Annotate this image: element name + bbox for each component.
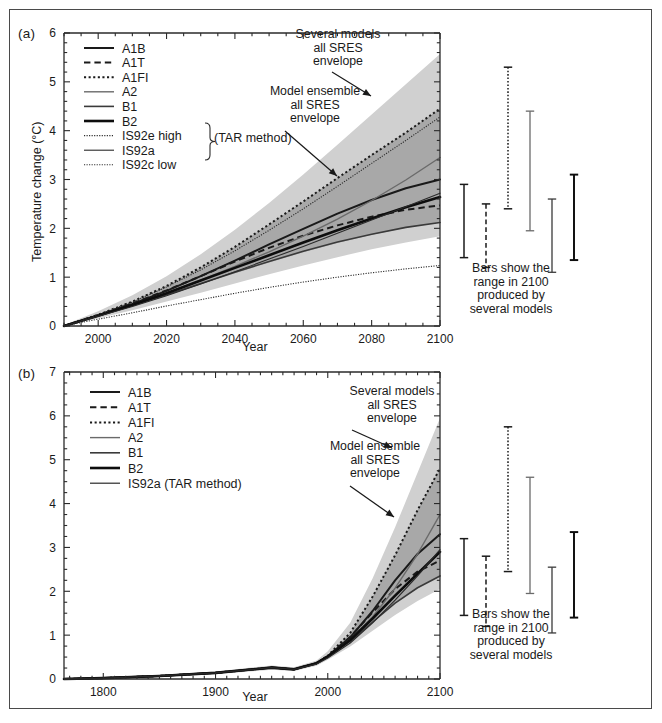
panel-b-legend-label-A1B: A1B: [128, 386, 152, 400]
panel-a-y-tick-label: 1: [49, 271, 56, 285]
panel-a-bars-caption: Bars show the range in 2100 produced by …: [452, 262, 570, 316]
panel-b-y-tick-label: 3: [49, 541, 56, 555]
panel-b-legend-label-B1: B1: [128, 446, 143, 460]
panel-b-legend-label-B2: B2: [128, 462, 143, 476]
panel-a-legend-label-A1T: A1T: [122, 56, 145, 70]
panel-a-y-axis-title: Temperature change (°C): [30, 122, 44, 262]
panel-b-y-tick-label: 0: [49, 672, 56, 686]
panel-b-legend-label-IS92a (TAR method): IS92a (TAR method): [128, 477, 242, 491]
panel-a-legend-label-A1FI: A1FI: [122, 71, 148, 85]
panel-a-legend-label-IS92e high: IS92e high: [122, 129, 182, 143]
panel-a-legend: A1BA1TA1FIA2B1B2IS92e highIS92aIS92c low: [84, 42, 182, 173]
panel-b-several-models-annotation: Several models all SRES envelope: [322, 385, 462, 426]
panel-a-several-models-annotation: Several models all SRES envelope: [268, 28, 408, 69]
panel-a-label: (a): [18, 26, 35, 41]
figure-root: 0123456200020202040206020802100A1BA1TA1F…: [0, 0, 662, 723]
panel-a-legend-label-B1: B1: [122, 100, 137, 114]
panel-a-y-tick-label: 0: [49, 319, 56, 333]
panel-b-y-tick-label: 6: [49, 409, 56, 423]
panel-b-y-tick-label: 7: [49, 365, 56, 379]
panel-a-y-tick-label: 4: [49, 124, 56, 138]
panel-b-x-tick-label: 1800: [90, 685, 117, 699]
panel-b-y-tick-label: 1: [49, 629, 56, 643]
panel-b-legend-label-A1T: A1T: [128, 401, 151, 415]
panel-a-y-tick-label: 5: [49, 75, 56, 89]
panel-b-legend-label-A1FI: A1FI: [128, 416, 154, 430]
panel-b-legend: A1BA1TA1FIA2B1B2IS92a (TAR method): [90, 386, 242, 491]
panel-a-y-tick-label: 3: [49, 173, 56, 187]
panel-a: 0123456200020202040206020802100A1BA1TA1F…: [0, 0, 662, 352]
panel-a-x-tick-label: 2020: [153, 332, 180, 346]
panel-b-annotation-arrow-line-1: [350, 486, 394, 517]
panel-b-x-tick-label: 2100: [427, 685, 454, 699]
panel-a-tar-method-brace-label: (TAR method): [214, 131, 292, 145]
panel-b: 012345671800190020002100A1BA1TA1FIA2B1B2…: [0, 352, 662, 723]
panel-b-model-ensemble-annotation: Model ensemble all SRES envelope: [300, 440, 450, 481]
panel-a-model-ensemble-annotation: Model ensemble all SRES envelope: [240, 85, 390, 126]
panel-b-y-tick-label: 5: [49, 453, 56, 467]
panel-a-x-tick-label: 2000: [85, 332, 112, 346]
panel-b-bars-caption: Bars show the range in 2100 produced by …: [452, 608, 570, 662]
panel-b-range-bars: [460, 427, 578, 633]
panel-a-legend-label-IS92a: IS92a: [122, 144, 155, 158]
panel-a-legend-label-A2: A2: [122, 85, 137, 99]
panel-b-y-tick-label: 2: [49, 585, 56, 599]
panel-b-annotation-arrow-head-1: [386, 510, 394, 517]
panel-a-legend-label-B2: B2: [122, 115, 137, 129]
panel-a-y-tick-label: 6: [49, 26, 56, 40]
panel-b-x-axis-title: Year: [195, 690, 315, 704]
panel-b-x-tick-label: 2000: [314, 685, 341, 699]
panel-a-x-tick-label: 2100: [427, 332, 454, 346]
panel-a-legend-label-A1B: A1B: [122, 42, 146, 56]
panel-b-legend-label-A2: A2: [128, 431, 143, 445]
panel-a-x-tick-label: 2080: [358, 332, 385, 346]
panel-a-y-tick-label: 2: [49, 222, 56, 236]
panel-a-legend-label-IS92c low: IS92c low: [122, 158, 177, 172]
panel-a-range-bars: [460, 67, 578, 272]
panel-b-label: (b): [18, 366, 35, 381]
panel-b-y-tick-label: 4: [49, 497, 56, 511]
